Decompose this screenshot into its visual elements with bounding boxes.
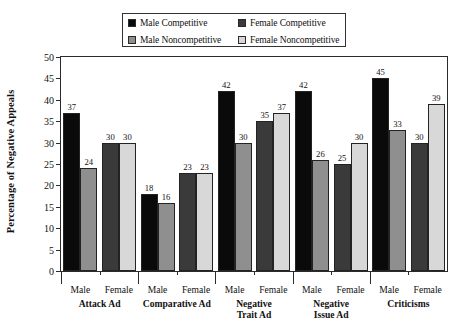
x-axis-group-separator: [370, 271, 371, 284]
legend-label-female-competitive: Female Competitive: [250, 18, 326, 28]
y-axis-tick-label: 15: [14, 201, 54, 212]
chart-plot-inner: 051015202530354045503724Male3030FemaleAt…: [61, 57, 447, 271]
x-axis-subgroup-label: Male: [70, 284, 90, 295]
legend-swatch-female-competitive: [238, 19, 246, 27]
bar: [158, 203, 175, 271]
bar: [235, 143, 252, 271]
x-axis-subgroup-tick: [177, 271, 178, 275]
y-axis-tick-label: 35: [14, 116, 54, 127]
bar: [63, 113, 80, 271]
y-axis-tick-label: 30: [14, 137, 54, 148]
x-axis-subgroup-label: Male: [302, 284, 322, 295]
chart-plot-area: 051015202530354045503724Male3030FemaleAt…: [60, 56, 448, 272]
y-axis-tick: [56, 57, 61, 58]
bar-value-label: 33: [393, 119, 402, 129]
x-axis-group-label-line: Trait Ad: [236, 309, 272, 320]
bar-value-label: 37: [278, 102, 287, 112]
bar-value-label: 30: [415, 132, 424, 142]
x-axis-group-label-line: Comparative Ad: [143, 298, 211, 309]
y-axis-tick-label: 25: [14, 159, 54, 170]
bar: [218, 91, 235, 271]
bar-value-label: 42: [299, 80, 308, 90]
legend-label-male-noncompetitive: Male Noncompetitive: [140, 35, 221, 45]
x-axis-group-label-line: Issue Ad: [313, 309, 349, 320]
x-axis-subgroup-label: Female: [105, 284, 133, 295]
legend-label-male-competitive: Male Competitive: [140, 18, 207, 28]
x-axis-subgroup-label: Female: [259, 284, 287, 295]
bar: [372, 78, 389, 271]
bar-value-label: 35: [261, 110, 270, 120]
y-axis-tick: [56, 164, 61, 165]
x-axis-group-label: NegativeIssue Ad: [313, 298, 349, 320]
bar-value-label: 23: [183, 162, 192, 172]
y-axis-tick-label: 50: [14, 52, 54, 63]
x-axis-group-label: Comparative Ad: [143, 298, 211, 309]
y-axis-tick-label: 20: [14, 180, 54, 191]
bar-value-label: 30: [123, 132, 132, 142]
bar-value-label: 42: [222, 80, 231, 90]
bar: [119, 143, 136, 271]
x-axis-subgroup-label: Male: [379, 284, 399, 295]
x-axis-subgroup-label: Male: [148, 284, 168, 295]
y-axis-tick: [56, 228, 61, 229]
bar-value-label: 16: [162, 192, 171, 202]
bar-value-label: 30: [106, 132, 115, 142]
bar-value-label: 37: [68, 102, 77, 112]
bar-value-label: 25: [338, 153, 347, 163]
y-axis-tick-label: 5: [14, 244, 54, 255]
bar-value-label: 30: [355, 132, 364, 142]
bar-value-label: 26: [316, 149, 325, 159]
x-axis-group-separator: [215, 271, 216, 284]
x-axis-group-label: NegativeTrait Ad: [236, 298, 272, 320]
y-axis-tick: [56, 100, 61, 101]
x-axis-group-separator: [293, 271, 294, 284]
bar: [389, 130, 406, 271]
x-axis-group-label-line: Criticisms: [387, 298, 429, 309]
legend-entry-female-noncompetitive: Female Noncompetitive: [233, 35, 347, 45]
bar-value-label: 24: [85, 157, 94, 167]
x-axis-group-label: Criticisms: [387, 298, 429, 309]
x-axis-group-separator: [138, 271, 139, 284]
x-axis-group-label-line: Attack Ad: [79, 298, 121, 309]
bar: [334, 164, 351, 271]
legend-entry-male-noncompetitive: Male Noncompetitive: [123, 35, 233, 45]
x-axis-subgroup-label: Female: [182, 284, 210, 295]
x-axis-subgroup-tick: [331, 271, 332, 275]
legend-swatch-male-competitive: [128, 19, 136, 27]
x-axis-subgroup-label: Female: [414, 284, 442, 295]
bar: [179, 173, 196, 271]
legend-entry-male-competitive: Male Competitive: [123, 18, 233, 28]
bar: [273, 113, 290, 271]
bar: [80, 168, 97, 271]
bar-value-label: 39: [432, 93, 441, 103]
bar: [196, 173, 213, 271]
y-axis-tick-label: 0: [14, 266, 54, 277]
y-axis-tick: [56, 250, 61, 251]
x-axis-subgroup-tick: [408, 271, 409, 275]
bar: [351, 143, 368, 271]
bar-value-label: 23: [200, 162, 209, 172]
y-axis-tick: [56, 207, 61, 208]
y-axis-tick: [56, 185, 61, 186]
legend-label-female-noncompetitive: Female Noncompetitive: [250, 35, 339, 45]
y-axis-tick-label: 10: [14, 223, 54, 234]
legend-swatch-female-noncompetitive: [238, 36, 246, 44]
chart-legend: Male Competitive Female Competitive Male…: [122, 13, 346, 47]
bar: [411, 143, 428, 271]
bar: [102, 143, 119, 271]
legend-entry-female-competitive: Female Competitive: [233, 18, 347, 28]
y-axis-tick: [56, 143, 61, 144]
bar: [141, 194, 158, 271]
bar: [428, 104, 445, 271]
x-axis-subgroup-label: Male: [225, 284, 245, 295]
x-axis-group-label: Attack Ad: [79, 298, 121, 309]
bar-value-label: 45: [376, 67, 385, 77]
y-axis-tick: [56, 121, 61, 122]
y-axis-tick-label: 45: [14, 73, 54, 84]
bar: [312, 160, 329, 271]
y-axis-tick-label: 40: [14, 94, 54, 105]
legend-swatch-male-noncompetitive: [128, 36, 136, 44]
bar: [256, 121, 273, 271]
bar-value-label: 30: [239, 132, 248, 142]
x-axis-subgroup-label: Female: [336, 284, 364, 295]
